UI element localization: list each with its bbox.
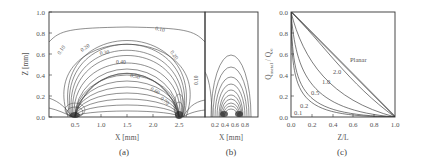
contour-lines-b: [205, 55, 251, 117]
svg-text:0.20: 0.20: [169, 49, 180, 61]
svg-text:0.6: 0.6: [349, 121, 358, 129]
svg-text:0.8: 0.8: [241, 121, 249, 128]
svg-text:0.2: 0.2: [308, 121, 317, 129]
svg-text:1.0: 1.0: [36, 9, 45, 17]
panel-label-c: (c): [337, 147, 347, 157]
svg-text:0.4: 0.4: [329, 121, 338, 129]
svg-text:0.2: 0.2: [211, 121, 219, 128]
figure: 0.10 0.10 0.20 0.20 0.30 0.40 0.50 0.60 …: [0, 0, 423, 165]
svg-text:0.10: 0.10: [193, 75, 199, 85]
svg-text:0.6: 0.6: [231, 121, 240, 128]
svg-text:0.70: 0.70: [159, 95, 170, 106]
svg-text:0.4: 0.4: [221, 121, 230, 128]
svg-text:0.4: 0.4: [36, 72, 45, 80]
svg-text:0.10: 0.10: [56, 44, 67, 56]
svg-text:0.8: 0.8: [279, 30, 288, 38]
panel-a: 0.10 0.10 0.20 0.20 0.30 0.40 0.50 0.60 …: [21, 9, 205, 157]
svg-text:0.5: 0.5: [311, 89, 319, 96]
svg-text:2.0: 2.0: [333, 68, 341, 75]
svg-text:0.5: 0.5: [71, 121, 80, 129]
panel-b: 0.2 0.4 0.6 0.8 X [mm] (b): [205, 12, 258, 157]
svg-text:0.30: 0.30: [99, 49, 110, 56]
plot-frame-b: [205, 12, 258, 117]
y-axis-label-a: Z [mm]: [21, 52, 30, 75]
svg-text:0.2: 0.2: [36, 93, 45, 101]
svg-text:0.1: 0.1: [294, 109, 302, 116]
svg-text:1.0: 1.0: [322, 78, 330, 85]
series-labels-c: Planar 2.0 1.0 0.5 0.2 0.1: [294, 56, 367, 116]
electrode-b-left: [220, 111, 228, 117]
x-axis-label-b: X [mm]: [219, 133, 243, 142]
x-axis-label-c: Z/L: [337, 133, 349, 142]
svg-text:0.2: 0.2: [300, 102, 308, 109]
svg-text:0.60: 0.60: [150, 86, 162, 96]
svg-text:1.0: 1.0: [391, 121, 400, 129]
svg-text:0.0: 0.0: [36, 114, 45, 122]
svg-text:0.10: 0.10: [155, 25, 166, 33]
svg-text:2.0: 2.0: [149, 121, 158, 129]
svg-text:0.6: 0.6: [279, 51, 288, 59]
svg-text:0.8: 0.8: [370, 121, 379, 129]
y-axis-label-c: Qmetal / Q∞: [264, 48, 274, 80]
svg-text:0.20: 0.20: [79, 42, 91, 53]
svg-text:0.50: 0.50: [130, 72, 141, 80]
svg-text:Planar: Planar: [350, 56, 367, 63]
svg-text:0.40: 0.40: [116, 59, 126, 65]
svg-text:Qmetal / Q∞: Qmetal / Q∞: [264, 48, 274, 80]
svg-text:0.0: 0.0: [279, 9, 288, 17]
svg-text:0.4: 0.4: [279, 72, 288, 80]
x-tick-labels-c: 0.0 0.2 0.4 0.6 0.8 1.0: [287, 121, 400, 129]
x-tick-labels-a: 0.5 1.0 1.5 2.0 2.5: [71, 121, 184, 129]
svg-text:1.0: 1.0: [97, 121, 106, 129]
x-axis-label-a: X [mm]: [115, 133, 139, 142]
svg-text:0.0: 0.0: [287, 121, 296, 129]
panel-label-a: (a): [119, 147, 129, 157]
svg-text:0.8: 0.8: [36, 30, 45, 38]
y-tick-labels-a: 0.0 0.2 0.4 0.6 0.8 1.0: [36, 9, 45, 122]
svg-text:1.5: 1.5: [123, 121, 132, 129]
x-tick-labels-b: 0.2 0.4 0.6 0.8: [211, 121, 249, 128]
y-tick-labels-c: 0.0 0.2 0.4 0.6 0.8 0.0: [279, 9, 288, 122]
electrode-b-right: [235, 111, 243, 117]
plot-frame-a: [49, 12, 205, 117]
panel-c: Planar 2.0 1.0 0.5 0.2 0.1 0.0 0.2 0.4 0…: [264, 9, 400, 157]
svg-text:0.6: 0.6: [36, 51, 45, 59]
panel-label-b: (b): [226, 147, 237, 157]
svg-text:0.2: 0.2: [279, 93, 288, 101]
svg-text:2.5: 2.5: [175, 121, 184, 129]
